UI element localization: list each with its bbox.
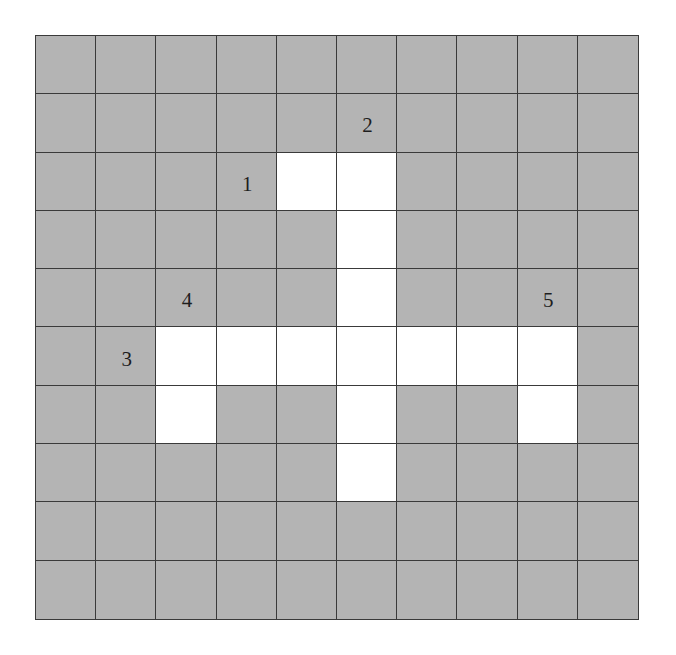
blocked-cell: [217, 386, 277, 444]
blocked-cell: [578, 211, 638, 269]
blocked-cell: [397, 36, 457, 94]
blocked-cell: [36, 153, 96, 211]
blocked-cell: [397, 153, 457, 211]
blocked-cell: [457, 94, 517, 152]
blocked-cell: [156, 561, 216, 619]
blocked-cell: [578, 327, 638, 385]
clue-number: 2: [362, 115, 373, 136]
blocked-cell: [277, 386, 337, 444]
blocked-cell: [578, 561, 638, 619]
blocked-cell: [96, 386, 156, 444]
blocked-cell: 2: [337, 94, 397, 152]
blocked-cell: [457, 386, 517, 444]
blocked-cell: [397, 561, 457, 619]
blocked-cell: [337, 502, 397, 560]
blocked-cell: [518, 502, 578, 560]
blocked-cell: [156, 94, 216, 152]
blocked-cell: [277, 269, 337, 327]
blocked-cell: [96, 269, 156, 327]
blocked-cell: [277, 36, 337, 94]
open-cell[interactable]: [156, 386, 216, 444]
blocked-cell: [457, 36, 517, 94]
blocked-cell: [277, 502, 337, 560]
blocked-cell: [397, 211, 457, 269]
blocked-cell: [277, 561, 337, 619]
blocked-cell: 3: [96, 327, 156, 385]
blocked-cell: [337, 561, 397, 619]
blocked-cell: [457, 502, 517, 560]
blocked-cell: [518, 94, 578, 152]
blocked-cell: [578, 444, 638, 502]
blocked-cell: [518, 153, 578, 211]
blocked-cell: 1: [217, 153, 277, 211]
open-cell[interactable]: [518, 386, 578, 444]
open-cell[interactable]: [217, 327, 277, 385]
blocked-cell: [96, 502, 156, 560]
blocked-cell: [457, 561, 517, 619]
blocked-cell: [96, 211, 156, 269]
blocked-cell: [578, 502, 638, 560]
open-cell[interactable]: [337, 444, 397, 502]
blocked-cell: [578, 94, 638, 152]
open-cell[interactable]: [277, 327, 337, 385]
blocked-cell: [96, 561, 156, 619]
blocked-cell: [578, 386, 638, 444]
blocked-cell: [457, 211, 517, 269]
blocked-cell: [277, 444, 337, 502]
open-cell[interactable]: [156, 327, 216, 385]
crossword-grid: 21453: [35, 35, 639, 620]
blocked-cell: [397, 502, 457, 560]
blocked-cell: [217, 502, 277, 560]
open-cell[interactable]: [337, 211, 397, 269]
blocked-cell: [518, 561, 578, 619]
clue-number: 5: [543, 290, 554, 311]
blocked-cell: [397, 386, 457, 444]
blocked-cell: [36, 36, 96, 94]
blocked-cell: [217, 36, 277, 94]
blocked-cell: [217, 269, 277, 327]
blocked-cell: [36, 502, 96, 560]
blocked-cell: [156, 444, 216, 502]
blocked-cell: [96, 153, 156, 211]
blocked-cell: [217, 561, 277, 619]
blocked-cell: [36, 327, 96, 385]
blocked-cell: [96, 94, 156, 152]
blocked-cell: [457, 444, 517, 502]
blocked-cell: [397, 444, 457, 502]
blocked-cell: [457, 153, 517, 211]
blocked-cell: [36, 269, 96, 327]
blocked-cell: [217, 211, 277, 269]
blocked-cell: [96, 444, 156, 502]
blocked-cell: [96, 36, 156, 94]
blocked-cell: 4: [156, 269, 216, 327]
clue-number: 4: [182, 290, 193, 311]
open-cell[interactable]: [337, 269, 397, 327]
open-cell[interactable]: [337, 153, 397, 211]
blocked-cell: [518, 211, 578, 269]
blocked-cell: [36, 211, 96, 269]
blocked-cell: [578, 153, 638, 211]
blocked-cell: [277, 94, 337, 152]
blocked-cell: [518, 444, 578, 502]
open-cell[interactable]: [337, 327, 397, 385]
open-cell[interactable]: [337, 386, 397, 444]
open-cell[interactable]: [277, 153, 337, 211]
blocked-cell: [578, 36, 638, 94]
blocked-cell: [457, 269, 517, 327]
open-cell[interactable]: [518, 327, 578, 385]
blocked-cell: [397, 269, 457, 327]
blocked-cell: 5: [518, 269, 578, 327]
blocked-cell: [217, 94, 277, 152]
blocked-cell: [578, 269, 638, 327]
open-cell[interactable]: [457, 327, 517, 385]
blocked-cell: [36, 386, 96, 444]
blocked-cell: [337, 36, 397, 94]
blocked-cell: [217, 444, 277, 502]
blocked-cell: [36, 444, 96, 502]
blocked-cell: [156, 502, 216, 560]
blocked-cell: [156, 211, 216, 269]
clue-number: 1: [242, 174, 253, 195]
open-cell[interactable]: [397, 327, 457, 385]
blocked-cell: [277, 211, 337, 269]
blocked-cell: [518, 36, 578, 94]
